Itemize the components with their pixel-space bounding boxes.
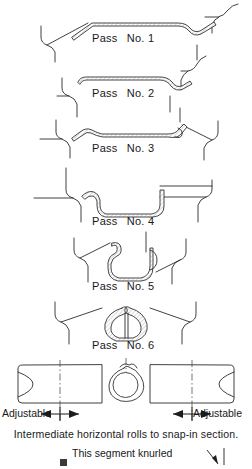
pass-1-label-number: No. 1 [127,32,155,44]
pass-1-label: PassNo. 1 [92,32,154,44]
knurl-leader-arrowhead [212,455,218,464]
pass-2-label: PassNo. 2 [92,87,154,99]
pass-6-strip-hatch [105,307,148,341]
pass-5-label-text: Pass [92,280,118,292]
pass-1-right-roll [205,4,238,17]
pass-6-label-text: Pass [92,339,118,351]
pass-3-label: PassNo. 3 [92,142,154,154]
pass-5-label: PassNo. 5 [92,280,154,292]
knurled-segment-note: This segment knurled [72,447,172,459]
pass-5-group [74,232,186,284]
pass-2-left-roll [62,78,77,117]
pass-6-right-roll-flank [150,308,190,322]
pass-3-right-roll [204,121,218,160]
assembly-right-roll-groove [219,372,234,397]
pass-5-right-roll-flank [156,260,180,272]
assembly-tube-inner [113,373,138,398]
adjustable-label-left: Adjustable [2,407,51,419]
pass-3-label-number: No. 3 [127,142,155,154]
pass-2-label-text: Pass [92,87,118,99]
pass-6-left-roll [55,302,69,344]
pass-6-group [55,302,196,344]
pass-4-label-text: Pass [92,215,118,227]
pass-4-strip-hatch [82,190,164,217]
assembly-caption: Intermediate horizontal rolls to snap-in… [0,428,252,440]
forming-pass-diagram [0,0,252,469]
knurl-swatch [60,459,67,466]
pass-2-label-number: No. 2 [127,87,155,99]
pass-2-right-roll [181,56,206,71]
pass-4-label: PassNo. 4 [92,215,154,227]
pass-6-left-roll-flank [61,308,102,322]
pass-5-left-roll [74,238,88,282]
adjustable-label-right: Adjustable [193,407,242,419]
pass-4-left-roll [66,168,81,222]
pass-1-label-text: Pass [92,32,118,44]
pass-5-right-roll [172,239,186,284]
pass-5-label-number: No. 5 [127,280,155,292]
pass-6-label: PassNo. 6 [92,339,154,351]
pass-4-group [34,168,212,222]
pass-6-label-number: No. 6 [127,339,155,351]
pass-6-right-roll [182,302,196,344]
assembly-left-roll-groove [18,372,33,397]
pass-6-center-gap [125,313,128,338]
pass-3-label-text: Pass [92,142,118,154]
pass-4-label-number: No. 4 [127,215,155,227]
pass-5-left-roll-flank [80,243,110,258]
pass-3-strip [72,124,187,141]
